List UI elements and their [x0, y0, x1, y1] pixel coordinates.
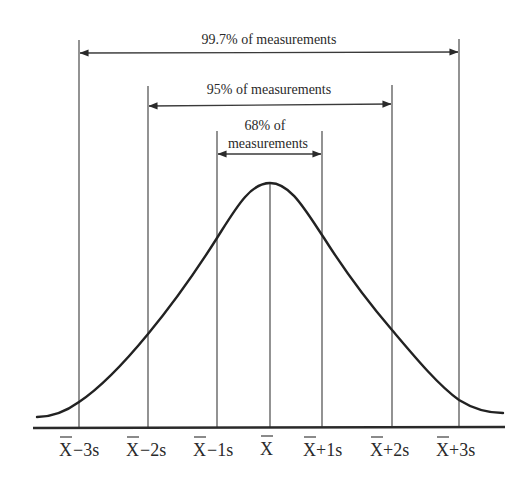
- xbar-symbol: X: [303, 440, 316, 460]
- x-axis-baseline: [33, 427, 505, 428]
- axis-label-plus-3s: X +3s: [436, 437, 475, 460]
- arrow-95-percent: [149, 104, 391, 106]
- label-68-percent-line2: measurements: [228, 136, 308, 151]
- xbar-symbol: X: [59, 440, 72, 460]
- normal-distribution-diagram: 99.7% of measurements 95% of measurement…: [0, 0, 529, 485]
- arrow-99-7-percent: [80, 52, 458, 53]
- axis-label-minus-3s: X −3s: [59, 437, 99, 460]
- label-68-percent-line1: 68% of: [245, 118, 286, 133]
- xbar-symbol: X: [436, 440, 449, 460]
- axis-label-minus-2s: X −2s: [126, 437, 166, 460]
- axis-label-mean: X: [260, 436, 273, 459]
- axis-label-plus-1s: X +1s: [303, 437, 342, 460]
- xbar-symbol: X: [370, 440, 383, 460]
- axis-suffix: +2s: [383, 440, 409, 460]
- axis-suffix: +1s: [316, 440, 342, 460]
- xbar-symbol: X: [193, 440, 206, 460]
- label-95-percent: 95% of measurements: [207, 82, 331, 97]
- axis-suffix: −3s: [73, 440, 99, 460]
- axis-label-minus-1s: X −1s: [193, 437, 233, 460]
- axis-suffix: −2s: [140, 440, 166, 460]
- axis-suffix: −1s: [207, 440, 233, 460]
- label-99-7-percent: 99.7% of measurements: [202, 32, 337, 47]
- axis-label-plus-2s: X +2s: [370, 437, 409, 460]
- axis-suffix: +3s: [449, 440, 475, 460]
- xbar-symbol: X: [126, 440, 139, 460]
- xbar-symbol: X: [260, 439, 273, 459]
